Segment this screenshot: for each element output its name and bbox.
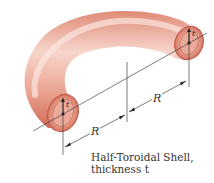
caption: Half-Toroidal Shell, thickness t (91, 151, 194, 175)
left-radius-label: R (90, 125, 99, 138)
caption-title: Half-Toroidal Shell, (91, 151, 194, 163)
right-radius-label: R (152, 92, 161, 105)
caption-thickness: thickness t (91, 163, 194, 175)
